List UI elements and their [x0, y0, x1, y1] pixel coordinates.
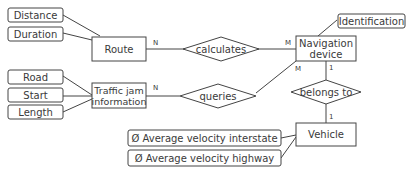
entity-navigation-device: Navigation device [296, 36, 356, 61]
er-diagram: Distance Duration Road Start Length Iden… [0, 0, 412, 177]
svg-text:Identification: Identification [339, 16, 405, 27]
relationship-queries: queries [180, 84, 256, 108]
svg-text:Start: Start [23, 90, 48, 101]
svg-text:Ø Average velocity interstate: Ø Average velocity interstate [131, 133, 277, 144]
svg-text:Distance: Distance [14, 10, 58, 21]
svg-text:information: information [92, 96, 147, 107]
relationship-belongs-to: belongs to [291, 80, 361, 104]
svg-text:calculates: calculates [196, 44, 246, 55]
svg-text:Traffic jam: Traffic jam [93, 85, 143, 96]
card-vehicle-belongs: 1 [329, 113, 333, 121]
svg-text:Navigation: Navigation [299, 38, 353, 49]
attribute-length: Length [8, 105, 63, 119]
svg-text:Ø Average velocity highway: Ø Average velocity highway [135, 153, 275, 164]
svg-text:Vehicle: Vehicle [308, 129, 344, 140]
attribute-distance: Distance [8, 8, 63, 22]
entity-vehicle: Vehicle [296, 123, 356, 146]
entity-traffic-jam-information: Traffic jam information [92, 83, 147, 108]
svg-text:queries: queries [199, 91, 236, 102]
svg-text:Route: Route [104, 44, 133, 55]
card-traffic-queries: N [153, 84, 158, 92]
card-route-calculates: N [153, 39, 158, 47]
attribute-avg-velocity-highway: Ø Average velocity highway [128, 150, 281, 166]
attribute-start: Start [8, 88, 63, 102]
svg-text:Length: Length [18, 107, 53, 118]
card-nav-calculates: M [285, 39, 291, 47]
svg-text:Road: Road [23, 72, 48, 83]
card-nav-queries: M [295, 65, 301, 73]
attribute-duration: Duration [8, 27, 63, 41]
entity-route: Route [92, 37, 146, 61]
svg-text:belongs to: belongs to [300, 87, 353, 98]
relationship-calculates: calculates [183, 37, 259, 61]
attribute-road: Road [8, 70, 63, 84]
attribute-identification: Identification [338, 14, 405, 28]
attribute-avg-velocity-interstate: Ø Average velocity interstate [128, 130, 281, 146]
svg-text:device: device [310, 49, 343, 60]
card-nav-belongs: 1 [329, 64, 333, 72]
svg-text:Duration: Duration [14, 29, 57, 40]
